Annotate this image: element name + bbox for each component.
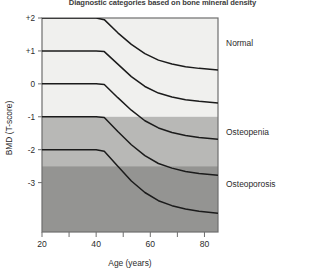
y-tick-label: -2 <box>28 146 36 155</box>
chart-canvas: +2+10-1-2-3 20406080 NormalOsteopeniaOst… <box>0 0 325 272</box>
bmd-tscore-chart: Diagnostic categories based on bone mine… <box>0 0 325 272</box>
x-tick-label: 40 <box>91 239 101 249</box>
y-tick-label: +2 <box>26 14 36 23</box>
y-axis-title: BMD (T-score) <box>4 101 14 156</box>
x-tick-labels: 20406080 <box>37 239 209 249</box>
y-tick-labels: +2+10-1-2-3 <box>26 14 36 188</box>
band-osteopenia <box>42 117 218 166</box>
y-tick-label: +1 <box>26 47 36 56</box>
annotation-osteoporosis: Osteoporosis <box>226 179 275 189</box>
band-osteoporosis <box>42 166 218 232</box>
annotation-osteopenia: Osteopenia <box>226 127 269 137</box>
band-annotations: NormalOsteopeniaOsteoporosis <box>226 38 275 190</box>
diagnostic-bands <box>42 18 218 232</box>
y-tick-label: -3 <box>28 179 36 188</box>
x-tick-label: 20 <box>37 239 47 249</box>
y-tick-label: -1 <box>28 113 36 122</box>
y-tick-label: 0 <box>30 80 35 89</box>
x-tick-label: 80 <box>200 239 210 249</box>
x-tick-label: 60 <box>146 239 156 249</box>
annotation-normal: Normal <box>226 38 253 48</box>
x-axis-title: Age (years) <box>108 258 151 268</box>
